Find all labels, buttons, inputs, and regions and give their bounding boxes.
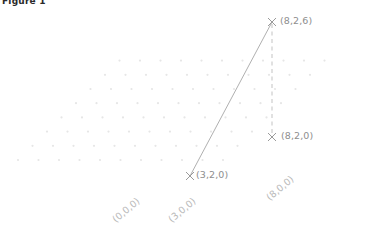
point-label-3-2-0: (3,2,0): [196, 169, 228, 180]
segment-solid-line: [190, 22, 272, 176]
marker-point-foot: [268, 133, 276, 141]
grid-dot-lattice: [17, 60, 326, 162]
point-label-8-2-0: (8,2,0): [281, 130, 313, 141]
marker-point-base: [186, 172, 194, 180]
point-label-8-2-6: (8,2,6): [280, 15, 312, 26]
figure-container: Figure 1: [0, 0, 365, 247]
